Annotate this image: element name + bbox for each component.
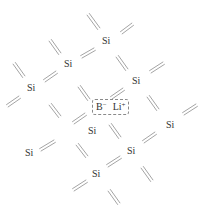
dopant-pair-box: B−Li+ (92, 99, 129, 115)
double-bond (149, 62, 165, 73)
double-bond (72, 113, 87, 124)
silicon-atom-label: Si (127, 146, 135, 156)
double-bond (182, 104, 198, 115)
lithium-charge: + (122, 101, 126, 109)
silicon-atom-label: Si (64, 59, 72, 69)
double-bond (43, 71, 58, 82)
double-bond (80, 48, 95, 58)
lithium-label: Li (113, 101, 122, 112)
double-bond (6, 96, 21, 107)
double-bond (87, 13, 100, 30)
boron-label: B (96, 101, 103, 112)
double-bond (13, 62, 25, 78)
double-bond (78, 85, 90, 101)
double-bond (108, 189, 120, 205)
double-bond (120, 23, 134, 34)
double-bond (49, 39, 61, 55)
silicon-atom-label: Si (102, 36, 110, 46)
silicon-atom-label: Si (88, 126, 96, 136)
double-bond (110, 88, 125, 99)
boron-charge: − (103, 101, 107, 109)
double-bond (141, 166, 153, 182)
double-bond (116, 55, 128, 71)
silicon-atom-label: Si (92, 169, 100, 179)
silicon-atom-label: Si (27, 83, 35, 93)
silicon-atom-label: Si (132, 76, 140, 86)
double-bond (39, 140, 55, 151)
double-bond (106, 156, 122, 167)
double-bond (147, 95, 159, 111)
double-bond (76, 143, 88, 158)
silicon-lattice-diagram: SiSiSiSiSiSiSiSiSi B−Li+ (0, 0, 204, 217)
silicon-atom-label: Si (166, 120, 174, 130)
double-bond (142, 132, 157, 143)
double-bond (49, 103, 61, 118)
silicon-atom-label: Si (25, 148, 33, 158)
double-bond (109, 123, 121, 139)
double-bond (72, 180, 88, 191)
